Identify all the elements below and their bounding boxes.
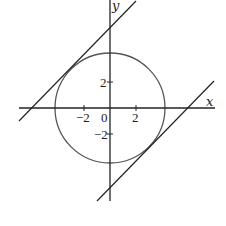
upper-tangent-line — [19, 1, 136, 121]
origin-label: 0 — [101, 110, 108, 125]
y-tick-label-2: 2 — [100, 75, 107, 90]
x-axis-label: x — [206, 94, 214, 109]
lower-tangent-line — [97, 81, 214, 201]
coordinate-diagram: y x 0 −2 2 2 −2 — [0, 0, 226, 226]
x-tick-label-neg2: −2 — [76, 110, 90, 125]
y-axis-label: y — [111, 0, 120, 13]
y-tick-label-neg2: −2 — [94, 127, 108, 142]
x-tick-label-2: 2 — [132, 110, 139, 125]
